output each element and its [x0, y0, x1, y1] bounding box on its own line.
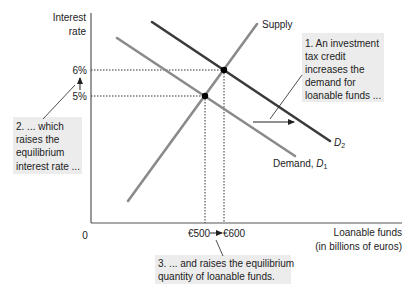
- demand1-label: Demand, D1: [273, 158, 328, 170]
- callout-1-line-3: increases the: [305, 64, 365, 75]
- callout-1-line-5: loanable funds ...: [305, 90, 381, 101]
- callout-1-line-1: 1. An investment: [305, 38, 379, 49]
- loanable-funds-diagram: Interest rate 6% 5% 0 Loanable funds (in…: [0, 0, 415, 298]
- y-axis-label-line2: rate: [69, 26, 87, 37]
- origin-label: 0: [82, 230, 88, 241]
- callout-1-line-2: tax credit: [305, 51, 346, 62]
- callout-3-line-1: 3. ... and raises the equilibrium: [158, 258, 294, 269]
- y-axis-label-line1: Interest: [53, 12, 87, 23]
- callout-2-line-3: equilibrium: [16, 147, 64, 158]
- equilibrium-point-new: [221, 67, 227, 73]
- diagram-canvas: Interest rate 6% 5% 0 Loanable funds (in…: [0, 0, 415, 298]
- y-tick-6pct: 6%: [73, 65, 88, 76]
- demand2-subscript: 2: [341, 142, 345, 149]
- callout-1: 1. An investment tax credit increases th…: [270, 33, 384, 119]
- demand2-label: D2: [334, 137, 345, 149]
- callout-3: 3. ... and raises the equilibrium quanti…: [155, 240, 294, 284]
- demand2-symbol: D: [334, 137, 341, 148]
- callout-3-leader: [216, 240, 223, 256]
- supply-label: Supply: [262, 19, 293, 30]
- callout-2-line-4: interest rate ...: [16, 161, 80, 172]
- y-tick-5pct: 5%: [73, 91, 88, 102]
- callout-3-line-2: quantity of loanable funds.: [158, 271, 275, 282]
- x-tick-600: €600: [223, 228, 246, 239]
- x-axis-label-line1: Loanable funds: [334, 227, 402, 238]
- x-tick-500: €500: [188, 228, 211, 239]
- demand1-symbol: D: [316, 158, 323, 169]
- callout-1-line-4: demand for: [305, 77, 356, 88]
- demand1-subscript: 1: [324, 163, 328, 170]
- callout-2-line-1: 2. ... which: [16, 121, 64, 132]
- callout-2-line-2: raises the: [16, 134, 60, 145]
- x-axis-label-line2: (in billions of euros): [315, 241, 402, 252]
- callout-2-leader: [43, 85, 75, 119]
- demand1-label-text: Demand,: [273, 158, 316, 169]
- equilibrium-point-initial: [202, 93, 208, 99]
